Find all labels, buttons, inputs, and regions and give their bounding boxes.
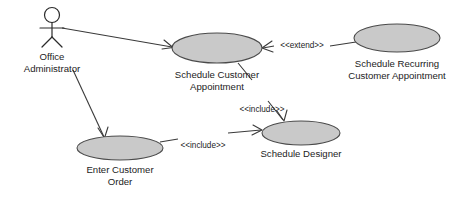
actor-head	[45, 8, 60, 23]
use-case-label-line2: Customer Appointment	[348, 70, 446, 81]
arrowhead-icon	[162, 40, 173, 49]
use-case-schedule-recurring-customer-appointment[interactable]: Schedule RecurringCustomer Appointment	[348, 24, 446, 81]
use-case-label-line1: Enter Customer	[86, 164, 154, 175]
actors-layer: OfficeAdministrator	[24, 8, 81, 74]
connector-administrator-to-enter-customer-order	[73, 70, 108, 138]
actor-label-line2: Administrator	[24, 63, 81, 74]
stereotype-label-extend: <<extend>>	[280, 41, 324, 50]
use-case-label-line1: Schedule Customer	[175, 69, 260, 80]
connector-administrator-to-schedule-appointment	[62, 28, 173, 49]
actor-office-administrator[interactable]: OfficeAdministrator	[24, 8, 81, 74]
use-case-ellipse[interactable]	[262, 121, 340, 145]
connector-path	[62, 28, 172, 47]
actor-label-line1: Office	[40, 51, 65, 62]
use-case-ellipse[interactable]	[77, 136, 163, 160]
use-case-label-line1: Schedule Designer	[260, 148, 342, 159]
use-case-enter-customer-order[interactable]: Enter CustomerOrder	[77, 136, 163, 187]
use-case-label-line1: Schedule Recurring	[355, 58, 439, 69]
use-case-diagram: <<extend>><<include>><<include>> Schedul…	[0, 0, 472, 201]
stereotype-label-include: <<include>>	[180, 141, 225, 150]
use-case-schedule-customer-appointment[interactable]: Schedule CustomerAppointment	[172, 33, 262, 92]
actor-leg-left	[42, 37, 52, 47]
use-case-label-line2: Appointment	[190, 81, 244, 92]
use-case-ellipse[interactable]	[172, 33, 262, 63]
use-case-label-line2: Order	[108, 176, 133, 187]
connector-path	[73, 70, 104, 137]
use-case-ellipse[interactable]	[354, 24, 440, 52]
actor-leg-right	[52, 37, 62, 47]
connector-enter-customer-order-include-schedule-designer: <<include>>	[160, 125, 262, 150]
connector-schedule-recurring-extend-schedule-appointment: <<extend>>	[262, 41, 356, 52]
stereotype-label-include: <<include>>	[239, 105, 284, 114]
diagram-canvas: <<extend>><<include>><<include>> Schedul…	[0, 0, 472, 201]
use-case-schedule-designer[interactable]: Schedule Designer	[260, 121, 342, 159]
